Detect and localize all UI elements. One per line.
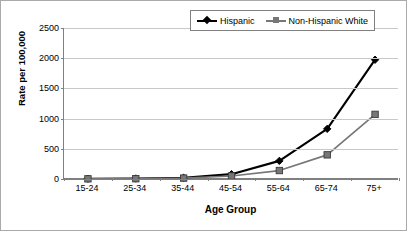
chart-legend: HispanicNon-Hispanic White <box>190 10 375 31</box>
y-tick-label: 1500 <box>23 83 59 93</box>
legend-swatch <box>197 16 217 25</box>
y-tick-label: 1000 <box>23 114 59 124</box>
x-tick-mark <box>351 178 352 181</box>
gridline <box>64 58 398 59</box>
y-tick-mark <box>61 88 64 89</box>
legend-entry-non-hispanic-white: Non-Hispanic White <box>266 16 369 26</box>
legend-square-marker-icon <box>273 17 279 23</box>
data-point-marker <box>324 152 330 158</box>
legend-swatch <box>266 16 286 25</box>
plot-area <box>63 28 398 179</box>
y-tick-mark <box>61 58 64 59</box>
y-axis-tick-labels: 05001000150020002500 <box>23 1 59 231</box>
legend-label: Non-Hispanic White <box>287 16 369 26</box>
x-tick-mark <box>399 178 400 181</box>
x-axis-tick-labels: 15-2425-3435-4445-5455-6465-7475+ <box>63 183 398 199</box>
legend-label: Hispanic <box>218 16 255 26</box>
gridline <box>64 119 398 120</box>
series-plot <box>64 28 399 179</box>
y-tick-label: 2500 <box>23 23 59 33</box>
y-tick-mark <box>61 119 64 120</box>
x-tick-mark <box>208 178 209 181</box>
gridline <box>64 88 398 89</box>
x-axis-title: Age Group <box>63 204 398 215</box>
x-tick-mark <box>64 178 65 181</box>
y-tick-label: 0 <box>23 174 59 184</box>
x-tick-mark <box>160 178 161 181</box>
legend-diamond-marker-icon <box>203 16 211 24</box>
gridline <box>64 149 398 150</box>
x-tick-mark <box>303 178 304 181</box>
x-tick-mark <box>255 178 256 181</box>
series-line-non-hispanic-white <box>88 114 375 178</box>
x-tick-label: 75+ <box>344 183 404 193</box>
y-tick-mark <box>61 149 64 150</box>
axis-baseline <box>64 179 398 180</box>
y-tick-label: 2000 <box>23 53 59 63</box>
y-tick-mark <box>61 28 64 29</box>
legend-entry-hispanic: Hispanic <box>197 16 255 26</box>
chart-figure: Rate per 100,000 05001000150020002500 15… <box>0 0 407 231</box>
data-point-marker <box>372 111 378 117</box>
y-tick-label: 500 <box>23 144 59 154</box>
x-tick-mark <box>112 178 113 181</box>
data-point-marker <box>276 167 282 173</box>
